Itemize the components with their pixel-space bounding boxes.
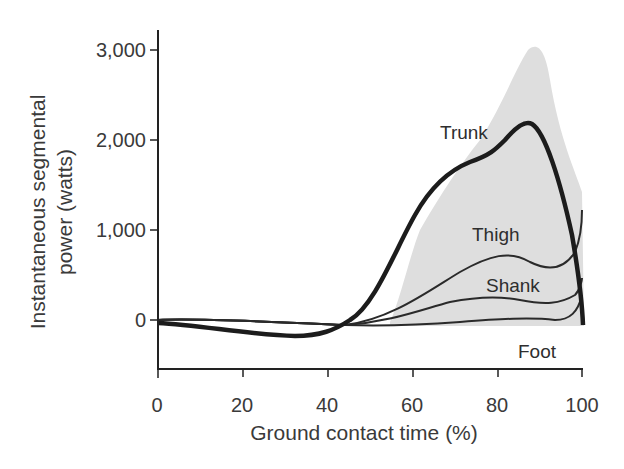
label-trunk: Trunk: [440, 122, 488, 143]
y-tick-2000: 2,000: [96, 129, 146, 151]
y-tick-0: 0: [135, 309, 146, 331]
x-tick-80: 80: [486, 394, 508, 416]
x-axis-label: Ground contact time (%): [250, 421, 478, 444]
label-shank: Shank: [486, 275, 540, 296]
x-tick-60: 60: [401, 394, 423, 416]
y-tick-3000: 3,000: [96, 39, 146, 61]
chart-canvas: 3,000 2,000 1,000 0 0 20 40 60 80 100 Gr…: [0, 0, 624, 469]
y-axis-label-line-1: Instantaneous segmental: [26, 95, 49, 330]
y-ticks: 3,000 2,000 1,000 0: [96, 39, 158, 331]
label-thigh: Thigh: [472, 224, 520, 245]
x-ticks: 0 20 40 60 80 100: [151, 369, 598, 416]
y-tick-1000: 1,000: [96, 219, 146, 241]
y-axis-label: Instantaneous segmental power (watts): [26, 95, 76, 330]
label-foot: Foot: [518, 341, 557, 362]
y-axis-label-line-2: power (watts): [53, 149, 76, 275]
x-tick-0: 0: [151, 394, 162, 416]
x-tick-100: 100: [565, 394, 598, 416]
x-tick-40: 40: [316, 394, 338, 416]
x-tick-20: 20: [231, 394, 253, 416]
